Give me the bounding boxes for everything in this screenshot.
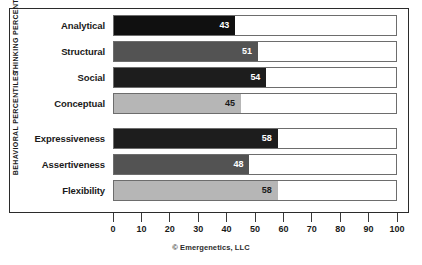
bar-track: 51 — [113, 41, 397, 62]
x-axis: 0102030405060708090100 — [113, 213, 397, 243]
bar-value-label: 45 — [225, 98, 241, 108]
bar-fill: 58 — [114, 181, 278, 200]
axis-tick — [198, 213, 199, 222]
bar-track: 58 — [113, 180, 397, 201]
bar-value-label: 54 — [250, 72, 266, 82]
bar-row: Social54 — [31, 66, 405, 88]
axis-tick-label: 100 — [384, 224, 410, 234]
bar-track: 43 — [113, 15, 397, 36]
axis-tick — [397, 213, 398, 222]
bar-label: Analytical — [31, 20, 113, 31]
bar-row: Expressiveness58 — [31, 127, 405, 149]
group-label-behavioral: BEHAVIORAL PERCENTILES — [12, 43, 19, 203]
axis-tick — [283, 213, 284, 222]
bar-row: Flexibility58 — [31, 179, 405, 201]
emergenetics-profile-chart: THINKING PERCENTILES BEHAVIORAL PERCENTI… — [0, 0, 422, 265]
bar-track: 48 — [113, 154, 397, 175]
bar-label: Conceptual — [31, 98, 113, 109]
axis-tick-label: 20 — [157, 224, 183, 234]
bar-track: 45 — [113, 93, 397, 114]
bar-track: 58 — [113, 128, 397, 149]
axis-tick-label: 0 — [100, 224, 126, 234]
axis-tick — [113, 213, 114, 222]
bar-value-label: 43 — [219, 20, 235, 30]
bar-rows: Analytical43Structural51Social54Conceptu… — [31, 8, 405, 211]
bar-fill: 58 — [114, 129, 278, 148]
axis-tick-label: 90 — [356, 224, 382, 234]
axis-tick-label: 50 — [242, 224, 268, 234]
axis-tick-label: 80 — [327, 224, 353, 234]
axis-tick — [226, 213, 227, 222]
axis-tick — [141, 213, 142, 222]
axis-tick — [311, 213, 312, 222]
bar-fill: 45 — [114, 94, 241, 113]
copyright-credit: © Emergenetics, LLC — [0, 243, 422, 252]
bar-value-label: 51 — [242, 46, 258, 56]
bar-value-label: 48 — [234, 159, 250, 169]
bar-label: Assertiveness — [31, 159, 113, 170]
bar-fill: 54 — [114, 68, 266, 87]
axis-tick-label: 40 — [214, 224, 240, 234]
bar-row: Structural51 — [31, 40, 405, 62]
bar-fill: 51 — [114, 42, 258, 61]
bar-fill: 43 — [114, 16, 235, 35]
bar-label: Structural — [31, 46, 113, 57]
bar-label: Social — [31, 72, 113, 83]
axis-tick-label: 60 — [270, 224, 296, 234]
axis-tick — [368, 213, 369, 222]
axis-tick — [255, 213, 256, 222]
bar-value-label: 58 — [262, 185, 278, 195]
axis-tick — [169, 213, 170, 222]
bar-label: Flexibility — [31, 185, 113, 196]
axis-tick-label: 30 — [185, 224, 211, 234]
bar-row: Assertiveness48 — [31, 153, 405, 175]
bar-label: Expressiveness — [31, 133, 113, 144]
bar-fill: 48 — [114, 155, 249, 174]
axis-tick-label: 10 — [128, 224, 154, 234]
axis-tick-label: 70 — [299, 224, 325, 234]
axis-tick — [340, 213, 341, 222]
bar-row: Analytical43 — [31, 14, 405, 36]
bar-value-label: 58 — [262, 133, 278, 143]
bar-row: Conceptual45 — [31, 92, 405, 114]
bar-track: 54 — [113, 67, 397, 88]
